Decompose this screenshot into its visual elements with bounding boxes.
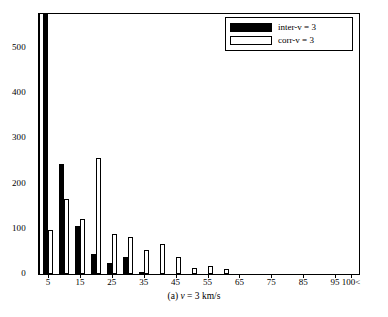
bar-corr-20 <box>96 158 101 274</box>
bar-corr-45 <box>176 257 181 274</box>
x-tick-label-100<: 100< <box>331 277 371 287</box>
bar-corr-55 <box>208 266 213 274</box>
bar-corr-15 <box>80 219 85 274</box>
y-tick-label-0: 0 <box>0 269 26 278</box>
bar-corr-10 <box>64 199 69 275</box>
bar-corr-60 <box>224 269 229 274</box>
legend-swatch-corr-icon <box>230 36 272 45</box>
bar-corr-35 <box>144 250 149 274</box>
y-tick-label-300: 300 <box>0 133 26 142</box>
legend-item-inter: inter-v = 3 <box>230 21 348 34</box>
plot-area <box>38 13 360 275</box>
bar-corr-5 <box>48 230 53 274</box>
bar-corr-40 <box>160 244 165 274</box>
x-axis-caption: (a) v = 3 km/s <box>0 291 388 302</box>
y-tick-label-400: 400 <box>0 88 26 97</box>
legend-swatch-inter-icon <box>230 23 272 32</box>
y-tick-label-200: 200 <box>0 179 26 188</box>
legend: inter-v = 3 corr-v = 3 <box>225 17 353 51</box>
bar-corr-25 <box>112 234 117 274</box>
bar-corr-50 <box>192 268 197 274</box>
y-tick-label-500: 500 <box>0 43 26 52</box>
legend-label-inter: inter-v = 3 <box>278 23 316 32</box>
caption-rest: = 3 km/s <box>185 291 221 301</box>
bars-layer <box>40 14 359 274</box>
bar-corr-30 <box>128 237 133 274</box>
histogram-figure: 0100200300400500 5152535455565758595100<… <box>0 0 388 317</box>
legend-item-corr: corr-v = 3 <box>230 34 348 47</box>
y-tick-label-100: 100 <box>0 224 26 233</box>
caption-prefix: (a) <box>168 291 181 301</box>
legend-label-corr: corr-v = 3 <box>278 36 314 45</box>
